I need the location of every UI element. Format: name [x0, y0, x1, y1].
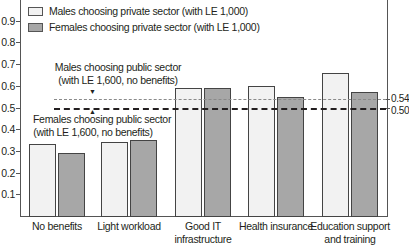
x-label: Education supportand training	[305, 220, 395, 245]
y-tick	[16, 194, 20, 195]
y-tick-label: 0.8	[0, 36, 15, 48]
arrow-down-icon: ▼	[89, 88, 96, 95]
ref-line-males-public	[54, 99, 386, 100]
annotation-females-public: Females choosing public sector (with LE …	[33, 113, 153, 138]
bar-males-4	[322, 73, 349, 217]
ref-line-label: 0.50	[391, 104, 409, 115]
legend-label-males: Males choosing private sector (with LE 1…	[49, 5, 248, 17]
y-tick-label: 0.9	[0, 15, 15, 27]
bar-females-1	[130, 140, 157, 217]
annotation-males-public: Males choosing public sector (with LE 1,…	[38, 61, 198, 86]
ref-line-females-public	[54, 108, 386, 110]
y-tick	[16, 129, 20, 130]
y-tick-label: 0.6	[0, 80, 15, 92]
y-tick-label: 0.3	[0, 145, 15, 157]
y-tick	[16, 64, 20, 65]
bar-females-0	[58, 153, 85, 217]
bar-females-3	[277, 97, 304, 217]
legend-item-females: Females choosing private sector (with LE…	[28, 21, 260, 33]
y-tick	[16, 173, 20, 174]
y-tick	[16, 108, 20, 109]
legend-item-males: Males choosing private sector (with LE 1…	[28, 5, 248, 17]
y-tick-label: 0.5	[0, 102, 15, 114]
bar-chart: 0.10.20.30.40.50.60.70.80.9 No benefitsL…	[0, 0, 409, 246]
y-tick	[16, 21, 20, 22]
y-tick	[16, 151, 20, 152]
legend-label-females: Females choosing private sector (with LE…	[49, 21, 260, 33]
bar-males-3	[248, 86, 275, 217]
bar-females-4	[351, 92, 378, 217]
y-tick-label: 0.4	[0, 123, 15, 135]
y-tick-label: 0.1	[0, 188, 15, 200]
ref-tick	[386, 108, 390, 109]
y-tick-label: 0.2	[0, 167, 15, 179]
ref-line-label: 0.54	[391, 92, 409, 103]
bar-males-1	[101, 142, 128, 217]
y-tick	[16, 42, 20, 43]
ref-tick	[386, 99, 390, 100]
y-tick	[16, 86, 20, 87]
legend-swatch-males	[28, 7, 43, 16]
y-tick-label: 0.7	[0, 58, 15, 70]
bar-males-0	[29, 144, 56, 217]
legend-swatch-females	[28, 23, 43, 32]
